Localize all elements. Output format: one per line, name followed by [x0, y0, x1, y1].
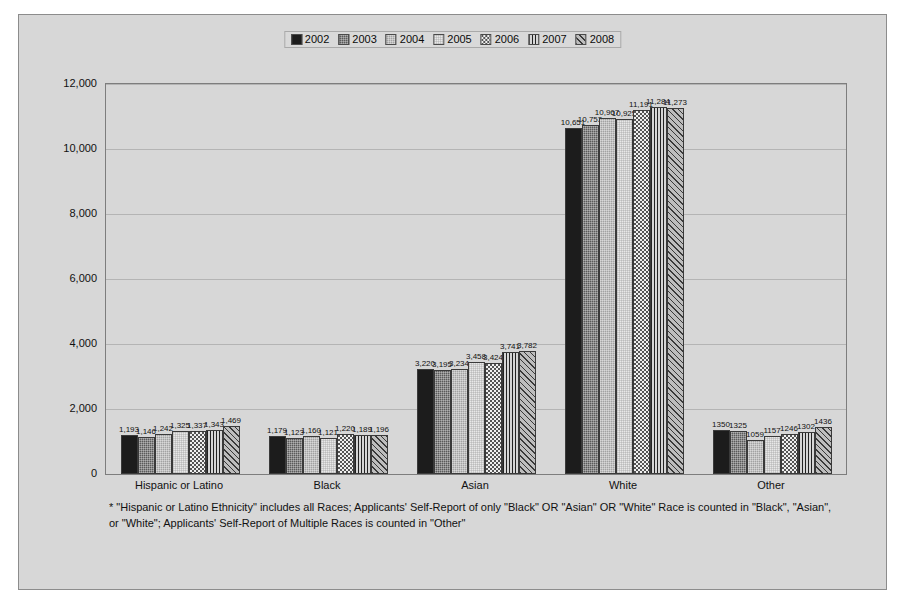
bar-rect[interactable]: [781, 434, 798, 474]
bar-value-label: 11,273: [663, 98, 687, 107]
legend-item-2006[interactable]: 2006: [481, 34, 519, 45]
bar-asian-2006[interactable]: 3,424: [485, 84, 502, 474]
bar-rect[interactable]: [451, 369, 468, 474]
bar-rect[interactable]: [713, 430, 730, 474]
bar-white-2007[interactable]: 11,284: [650, 84, 667, 474]
bar-rect[interactable]: [223, 426, 240, 474]
bar-black-2003[interactable]: 1,123: [286, 84, 303, 474]
bar-rect[interactable]: [747, 440, 764, 474]
bar-rect[interactable]: [582, 125, 599, 474]
bar-rect[interactable]: [519, 351, 536, 474]
legend-label-2005: 2005: [447, 34, 471, 45]
bar-hispanic-or-latino-2007[interactable]: 1,343: [206, 84, 223, 474]
bar-rect[interactable]: [434, 370, 451, 474]
bar-rect[interactable]: [303, 436, 320, 474]
bar-group-black: 1,1791,1231,1601,1211,2201,1891,196: [254, 84, 402, 474]
bar-hispanic-or-latino-2004[interactable]: 1,242: [155, 84, 172, 474]
bar-value-label: 1157: [763, 426, 780, 435]
bar-rect[interactable]: [730, 431, 747, 474]
bar-other-2008[interactable]: 1436: [815, 84, 832, 474]
x-axis-label-hispanic-or-latino: Hispanic or Latino: [135, 479, 223, 491]
bar-rect[interactable]: [502, 352, 519, 474]
legend-swatch-icon-2003: [338, 34, 349, 45]
bar-asian-2004[interactable]: 3,234: [451, 84, 468, 474]
bar-other-2006[interactable]: 1246: [781, 84, 798, 474]
bar-white-2002[interactable]: 10,651: [565, 84, 582, 474]
bar-hispanic-or-latino-2008[interactable]: 1,469: [223, 84, 240, 474]
chart-footnote: * "Hispanic or Latino Ethnicity" include…: [109, 499, 839, 531]
bar-black-2008[interactable]: 1,196: [371, 84, 388, 474]
chart-frame: 2002200320042005200620072008 02,0004,000…: [18, 14, 887, 590]
bar-rect[interactable]: [764, 436, 781, 474]
bar-black-2007[interactable]: 1,189: [354, 84, 371, 474]
legend-item-2008[interactable]: 2008: [576, 34, 614, 45]
legend-item-2005[interactable]: 2005: [433, 34, 471, 45]
bar-rect[interactable]: [371, 435, 388, 474]
bar-group-other: 1350132510591157124613021436: [698, 84, 846, 474]
bar-other-2005[interactable]: 1157: [764, 84, 781, 474]
bar-rect[interactable]: [565, 128, 582, 474]
bar-black-2005[interactable]: 1,121: [320, 84, 337, 474]
bar-value-label: 1350: [712, 420, 730, 429]
bar-hispanic-or-latino-2005[interactable]: 1,325: [172, 84, 189, 474]
x-axis-labels: Hispanic or LatinoBlackAsianWhiteOther: [105, 479, 847, 495]
bar-white-2006[interactable]: 11,191: [633, 84, 650, 474]
bar-black-2006[interactable]: 1,220: [337, 84, 354, 474]
bar-rect[interactable]: [468, 362, 485, 474]
bar-rect[interactable]: [138, 437, 155, 474]
bar-rect[interactable]: [206, 430, 223, 474]
bar-rect[interactable]: [121, 435, 138, 474]
legend-item-2007[interactable]: 2007: [528, 34, 566, 45]
bar-other-2003[interactable]: 1325: [730, 84, 747, 474]
bar-group-asian: 3,2203,1953,2343,4583,4243,7413,782: [402, 84, 550, 474]
bar-asian-2005[interactable]: 3,458: [468, 84, 485, 474]
legend-item-2003[interactable]: 2003: [338, 34, 376, 45]
bar-asian-2003[interactable]: 3,195: [434, 84, 451, 474]
bar-other-2004[interactable]: 1059: [747, 84, 764, 474]
bar-white-2004[interactable]: 10,967: [599, 84, 616, 474]
legend-label-2008: 2008: [590, 34, 614, 45]
bar-hispanic-or-latino-2006[interactable]: 1,337: [189, 84, 206, 474]
bar-rect[interactable]: [337, 434, 354, 474]
bar-rect[interactable]: [172, 431, 189, 474]
bar-asian-2007[interactable]: 3,741: [502, 84, 519, 474]
bar-rect[interactable]: [616, 119, 633, 474]
bar-white-2008[interactable]: 11,273: [667, 84, 684, 474]
bar-hispanic-or-latino-2003[interactable]: 1,146: [138, 84, 155, 474]
bar-rect[interactable]: [155, 434, 172, 474]
bar-rect[interactable]: [485, 363, 502, 474]
bar-asian-2008[interactable]: 3,782: [519, 84, 536, 474]
legend-swatch-icon-2008: [576, 34, 587, 45]
legend-label-2006: 2006: [495, 34, 519, 45]
bar-rect[interactable]: [633, 110, 650, 474]
bar-value-label: 1,196: [369, 425, 389, 434]
bar-rect[interactable]: [599, 118, 616, 474]
legend-item-2002[interactable]: 2002: [291, 34, 329, 45]
bar-white-2003[interactable]: 10,753: [582, 84, 599, 474]
bar-black-2004[interactable]: 1,160: [303, 84, 320, 474]
bar-value-label: 3,782: [517, 341, 537, 350]
bar-white-2005[interactable]: 10,925: [616, 84, 633, 474]
bar-black-2002[interactable]: 1,179: [269, 84, 286, 474]
bar-rect[interactable]: [286, 438, 303, 474]
bar-rect[interactable]: [189, 431, 206, 474]
legend-swatch-icon-2004: [386, 34, 397, 45]
bar-rect[interactable]: [667, 108, 684, 474]
bar-rect[interactable]: [320, 438, 337, 474]
bar-rect[interactable]: [417, 369, 434, 474]
bar-hispanic-or-latino-2002[interactable]: 1,193: [121, 84, 138, 474]
legend-item-2004[interactable]: 2004: [386, 34, 424, 45]
bar-group-white: 10,65110,75310,96710,92511,19111,28411,2…: [550, 84, 698, 474]
y-axis-tick-0: 0: [91, 467, 97, 479]
bar-rect[interactable]: [354, 435, 371, 474]
legend-label-2002: 2002: [305, 34, 329, 45]
chart-legend: 2002200320042005200620072008: [284, 31, 621, 48]
plot-area: 1,1931,1461,2421,3251,3371,3431,4691,179…: [105, 83, 847, 475]
bar-rect[interactable]: [650, 107, 667, 474]
bar-other-2002[interactable]: 1350: [713, 84, 730, 474]
bar-asian-2002[interactable]: 3,220: [417, 84, 434, 474]
bar-rect[interactable]: [798, 432, 815, 474]
bar-rect[interactable]: [815, 427, 832, 474]
bar-rect[interactable]: [269, 436, 286, 474]
bar-other-2007[interactable]: 1302: [798, 84, 815, 474]
